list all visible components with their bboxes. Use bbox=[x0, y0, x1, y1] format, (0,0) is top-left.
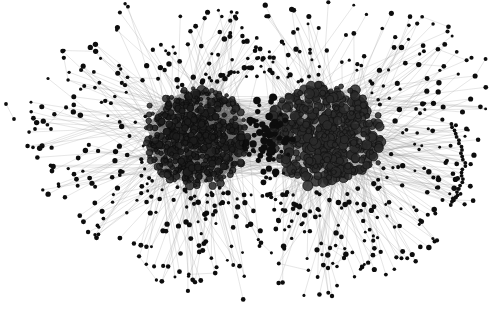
network-graph-canvas bbox=[0, 0, 490, 333]
network-graph-figure bbox=[0, 0, 490, 333]
